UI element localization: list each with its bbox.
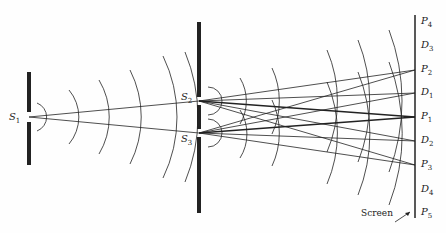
screen-arrowhead: [405, 212, 410, 216]
point-label-d1: D1: [421, 87, 434, 100]
screen-label: Screen: [361, 209, 393, 218]
point-label-d3: D3: [421, 40, 434, 53]
point-label-p4: P4: [421, 16, 432, 29]
interference-diagram: S1 S2 S3 P4 D3 P2 D1 P1 D2 P3 D4 P5 Scre…: [0, 0, 446, 233]
diagram-graphics: [0, 0, 446, 233]
point-label-p1: P1: [421, 111, 432, 124]
point-label-d4: D4: [421, 184, 434, 197]
source-label-s1: S1: [9, 112, 20, 125]
point-label-p3: P3: [421, 159, 432, 172]
source-label-s2: S2: [181, 92, 192, 105]
rays: [29, 70, 415, 165]
point-label-p2: P2: [421, 64, 432, 77]
s2-s3-wavefronts: [208, 30, 402, 205]
point-label-d2: D2: [421, 135, 434, 148]
point-label-p5: P5: [421, 207, 432, 220]
source-label-s3: S3: [181, 134, 192, 147]
s1-wavefronts: [37, 52, 198, 182]
